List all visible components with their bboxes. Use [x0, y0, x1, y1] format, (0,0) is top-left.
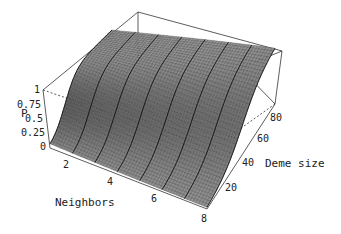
x-tick: 8 — [201, 213, 207, 224]
z-tick: 0 — [40, 141, 46, 152]
y-axis-label: Deme size — [265, 157, 325, 170]
x-tick: 2 — [63, 159, 69, 170]
x-tick: 6 — [151, 193, 157, 204]
y-tick: 40 — [242, 157, 254, 168]
x-tick: 4 — [107, 176, 113, 187]
y-tick: 60 — [257, 133, 269, 144]
z-tick: 0.5 — [25, 113, 43, 124]
z-axis-label: P — [21, 107, 28, 120]
z-tick: 1 — [34, 84, 40, 95]
x-axis-label: Neighbors — [55, 196, 115, 209]
y-tick: 20 — [225, 182, 237, 193]
surface-plot: 1 0.75 0.5 0.25 0 P 2 4 6 8 Neighbors 20… — [0, 0, 341, 234]
y-tick: 80 — [270, 112, 282, 123]
z-tick: 0.25 — [21, 127, 45, 138]
